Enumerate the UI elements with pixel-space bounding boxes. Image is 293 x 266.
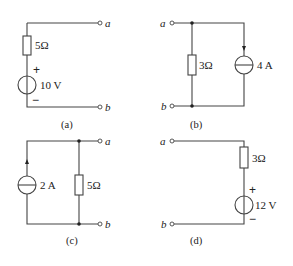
wire-top: [27, 141, 98, 176]
terminal-b: [98, 222, 102, 226]
terminal-b: [98, 105, 102, 109]
terminal-b: [170, 222, 174, 226]
terminal-a-label: a: [160, 135, 166, 147]
terminal-a: [98, 21, 102, 25]
circuit-diagrams: 5Ω + 10 V − a b (a) 3Ω 4 A a b (b): [0, 0, 293, 266]
terminal-a: [170, 139, 174, 143]
resistor-label: 3Ω: [252, 152, 266, 164]
circuit-b: 3Ω 4 A a b (b): [160, 17, 273, 131]
source-label: 12 V: [255, 199, 277, 211]
caption: (c): [66, 235, 78, 247]
circuit-d: 3Ω + 12 V − a b (d): [160, 135, 277, 247]
junction-dot: [190, 104, 194, 108]
resistor-label: 5Ω: [87, 179, 101, 191]
resistor: [23, 36, 31, 55]
junction-dot: [190, 21, 194, 25]
junction-dot: [77, 222, 81, 226]
caption: (a): [61, 119, 73, 131]
minus-sign: −: [249, 212, 256, 226]
circuit-c: 2 A 5Ω a b (c): [18, 135, 111, 247]
terminal-a-label: a: [160, 17, 166, 29]
caption: (d): [190, 235, 203, 247]
plus-sign: +: [249, 183, 256, 197]
source-label: 4 A: [257, 59, 273, 71]
wire-bottom: [174, 74, 244, 106]
arrow-up-icon: [25, 159, 29, 164]
minus-sign: −: [32, 93, 39, 107]
wire-top: [174, 23, 244, 56]
arrow-down-icon: [242, 46, 246, 51]
terminal-b-label: b: [105, 101, 111, 113]
plus-sign: +: [33, 63, 40, 77]
resistor: [188, 55, 196, 75]
terminal-a: [98, 139, 102, 143]
resistor: [75, 175, 83, 195]
terminal-a-label: a: [105, 17, 111, 29]
terminal-b-label: b: [161, 218, 167, 230]
wire-bottom: [27, 194, 98, 224]
caption: (b): [190, 119, 203, 131]
terminal-b-label: b: [161, 100, 167, 112]
source-label: 2 A: [40, 179, 56, 191]
source-label: 10 V: [40, 79, 62, 91]
wire-bottom: [174, 214, 244, 224]
terminal-b: [170, 104, 174, 108]
resistor-label: 5Ω: [35, 39, 49, 51]
wire-top: [174, 141, 244, 147]
junction-dot: [77, 139, 81, 143]
terminal-a-label: a: [105, 135, 111, 147]
terminal-a: [170, 21, 174, 25]
circuit-a: 5Ω + 10 V − a b (a): [18, 17, 111, 131]
resistor: [240, 147, 248, 168]
resistor-label: 3Ω: [199, 59, 213, 71]
terminal-b-label: b: [105, 218, 111, 230]
